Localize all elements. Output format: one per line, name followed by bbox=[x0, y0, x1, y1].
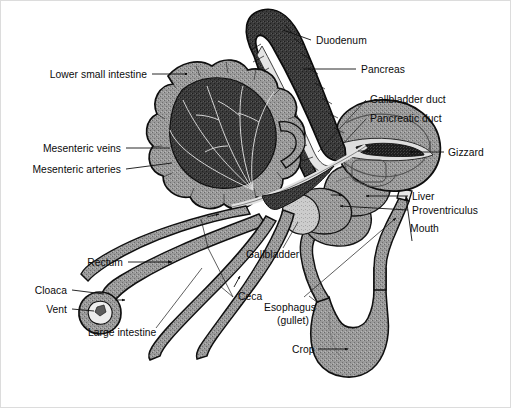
label-ceca: Ceca bbox=[238, 291, 262, 302]
label-mouth: Mouth bbox=[410, 223, 439, 234]
label-pancreas: Pancreas bbox=[361, 64, 405, 75]
label-esophagus-gullet: (gullet) bbox=[277, 315, 309, 326]
label-proventriculus: Proventriculus bbox=[412, 205, 478, 216]
label-large-intestine: Large intestine bbox=[88, 327, 157, 338]
label-pancreatic-duct: Pancreatic duct bbox=[370, 113, 442, 124]
label-crop: Crop bbox=[292, 344, 315, 355]
leader-flow-arrow-ceca bbox=[234, 276, 240, 287]
label-gizzard: Gizzard bbox=[448, 147, 484, 158]
label-mesenteric-veins: Mesenteric veins bbox=[43, 143, 121, 154]
label-gallbladder-duct: Gallbladder duct bbox=[370, 94, 446, 105]
leader-ceca-2 bbox=[220, 286, 233, 297]
label-cloaca: Cloaca bbox=[35, 285, 68, 296]
label-gallbladder: Gallbladder bbox=[246, 249, 300, 260]
digestive-system-illustration: Lower small intestine Mesenteric veins M… bbox=[0, 0, 511, 408]
label-vent: Vent bbox=[46, 304, 67, 315]
anatomy-figure: Lower small intestine Mesenteric veins M… bbox=[0, 0, 511, 408]
label-mesenteric-arteries: Mesenteric arteries bbox=[32, 164, 121, 175]
label-rectum: Rectum bbox=[87, 257, 123, 268]
label-esophagus: Esophagus bbox=[264, 302, 316, 313]
label-liver: Liver bbox=[412, 191, 435, 202]
label-lower-small-intestine: Lower small intestine bbox=[50, 69, 147, 80]
label-duodenum: Duodenum bbox=[316, 35, 367, 46]
